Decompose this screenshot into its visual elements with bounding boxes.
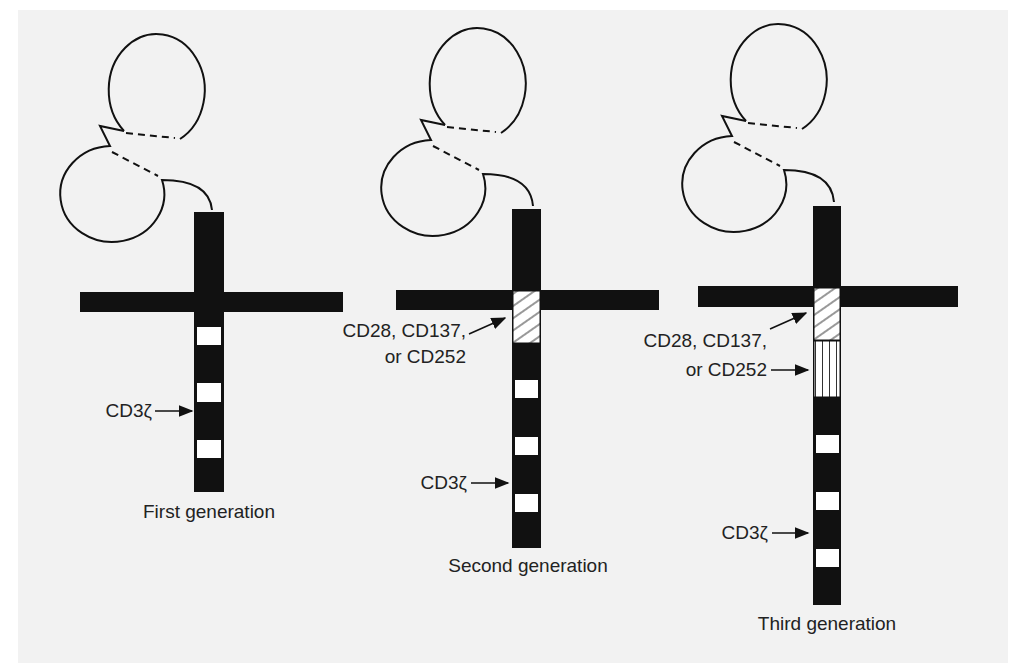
cd3z-label: CD3ζ: [676, 522, 768, 544]
construct-second-generation: [381, 28, 659, 548]
costimulatory-domain-2: [814, 341, 840, 397]
itam-band: [816, 435, 839, 453]
cd3z-label: CD3ζ: [60, 400, 152, 422]
arrow-icon: [469, 318, 505, 334]
construct-first-generation: [60, 34, 343, 492]
itam-band: [197, 383, 221, 402]
itam-band: [515, 437, 538, 455]
scfv-icon: [381, 28, 533, 236]
scfv-icon: [682, 24, 834, 232]
cd3z-label: CD3ζ: [375, 472, 467, 494]
scfv-icon: [60, 34, 212, 242]
caption-third-generation: Third generation: [727, 613, 927, 635]
costimulatory-domain-1: [814, 288, 840, 340]
itam-band: [515, 380, 538, 398]
itam-band: [515, 494, 538, 512]
costimulatory-domain: [513, 291, 540, 343]
itam-band: [816, 492, 839, 510]
costimulatory-label-line2: or CD252: [597, 359, 767, 381]
caption-second-generation: Second generation: [428, 555, 628, 577]
itam-band: [197, 327, 221, 345]
costimulatory-label-line1: CD28, CD137,: [597, 330, 767, 352]
construct-third-generation: [682, 24, 958, 605]
costimulatory-label-line1: CD28, CD137,: [296, 320, 466, 342]
caption-first-generation: First generation: [109, 501, 309, 523]
arrow-icon: [770, 313, 806, 329]
itam-band: [816, 549, 839, 567]
itam-band: [197, 440, 221, 458]
stem: [813, 206, 841, 605]
costimulatory-label-line2: or CD252: [296, 346, 466, 368]
